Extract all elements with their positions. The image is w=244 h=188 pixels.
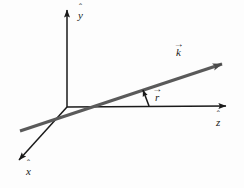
figure-container: ˆ y ˆ x ˆ z → k → r [0,0,244,188]
hat-accent-icon: ˆ [217,110,220,119]
x-axis-label: ˆ x [26,166,31,177]
r-angle-label: → r [155,92,159,103]
k-vector-label: → k [176,47,181,58]
axes-diagram-svg [0,0,244,188]
r-angle-arrow [143,90,149,106]
x-axis-line [19,107,67,160]
hat-accent-icon: ˆ [27,159,30,168]
vector-arrow-accent-icon: → [152,84,162,94]
hat-accent-icon: ˆ [79,3,82,12]
z-axis-label: ˆ z [216,117,220,128]
y-axis-label: ˆ y [78,10,83,21]
k-vector-line [20,64,222,131]
vector-arrow-accent-icon: → [174,39,184,49]
